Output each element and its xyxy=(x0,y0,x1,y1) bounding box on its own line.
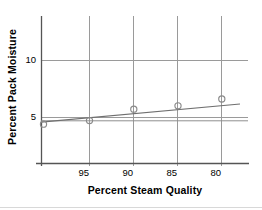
x-tick-label-90: 90 xyxy=(111,167,133,178)
plot-area xyxy=(0,0,262,210)
x-axis-title: Percent Steam Quality xyxy=(41,184,249,196)
x-tick-label-80: 80 xyxy=(199,167,221,178)
bottom-divider xyxy=(0,207,262,208)
x-tick-label-85: 85 xyxy=(155,167,177,178)
chart-figure: 10 5 95 90 85 80 Percent Pack Moisture P… xyxy=(0,0,262,210)
regression-line xyxy=(41,104,240,122)
y-axis-title: Percent Pack Moisture xyxy=(6,12,20,162)
x-tick-label-95: 95 xyxy=(67,167,89,178)
